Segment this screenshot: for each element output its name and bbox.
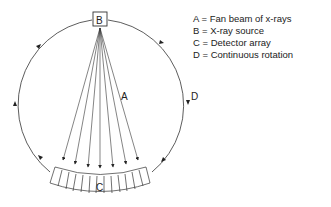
label-a: A [121, 91, 128, 102]
legend-item-b: B = X-ray source [193, 25, 293, 37]
legend: A = Fan beam of x-rays B = X-ray source … [193, 13, 293, 61]
label-b: B [96, 15, 103, 26]
legend-item-d: D = Continuous rotation [193, 49, 293, 61]
legend-item-c: C = Detector array [193, 37, 293, 49]
label-c: C [96, 182, 103, 193]
label-d: D [191, 91, 198, 102]
legend-item-a: A = Fan beam of x-rays [193, 13, 293, 25]
